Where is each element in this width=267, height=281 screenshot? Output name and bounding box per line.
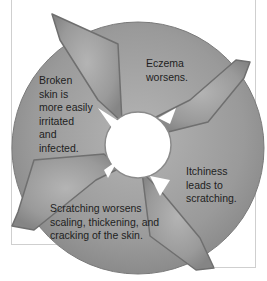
step-label-itchiness: Itchiness leads to scratching.	[186, 165, 237, 206]
step-line: infected.	[39, 142, 93, 156]
step-line: more easily	[39, 101, 93, 115]
step-label-scratching-worsens: Scratching worsens scaling, thickening, …	[50, 202, 159, 243]
step-line: Itchiness	[186, 165, 237, 179]
step-line: leads to	[186, 179, 237, 193]
step-line: scratching.	[186, 192, 237, 206]
step-line: irritated	[39, 115, 93, 129]
step-line: worsens.	[146, 71, 188, 85]
step-line: and	[39, 128, 93, 142]
step-line: Scratching worsens	[50, 202, 159, 216]
step-label-eczema-worsens: Eczema worsens.	[146, 57, 188, 84]
step-line: Broken	[39, 74, 93, 88]
step-label-broken-skin: Broken skin is more easily irritated and…	[39, 74, 93, 155]
step-line: scaling, thickening, and	[50, 216, 159, 230]
step-line: cracking of the skin.	[50, 229, 159, 243]
step-line: Eczema	[146, 57, 188, 71]
step-line: skin is	[39, 88, 93, 102]
